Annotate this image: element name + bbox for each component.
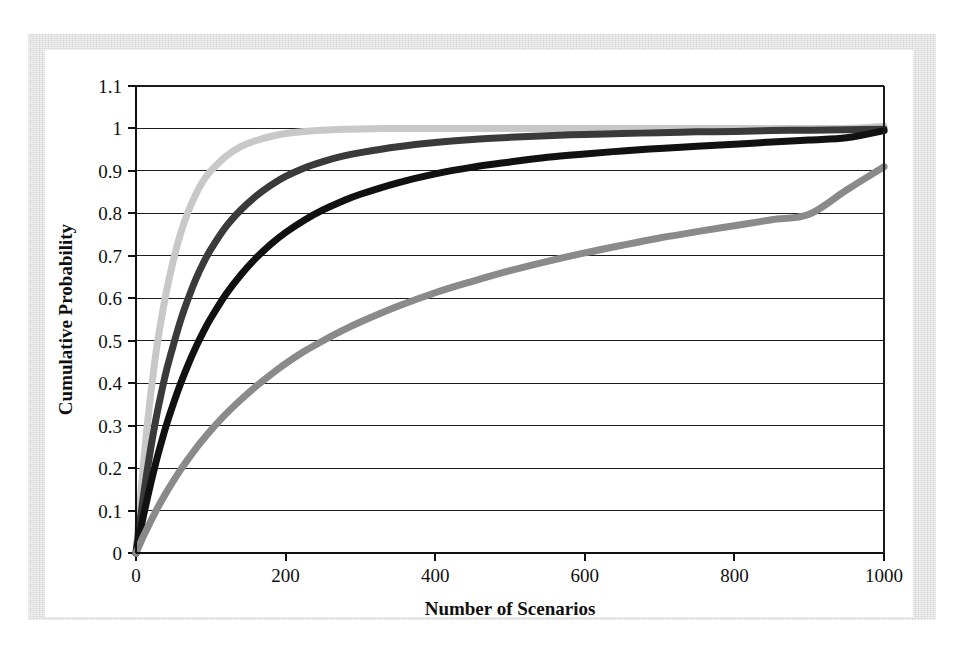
x-tick-label: 400 bbox=[421, 565, 450, 586]
y-tick-label: 1.1 bbox=[98, 76, 122, 97]
figure-page: 00.10.20.30.40.50.60.70.80.911.1 0200400… bbox=[0, 0, 964, 666]
series-group bbox=[136, 126, 884, 553]
y-tick-label: 0.5 bbox=[98, 331, 122, 352]
x-axis-title: Number of Scenarios bbox=[425, 598, 596, 617]
y-tick-label: 0.9 bbox=[98, 161, 122, 182]
x-tick-label: 600 bbox=[571, 565, 600, 586]
x-tick-labels-group: 02004006008001000 bbox=[131, 565, 903, 586]
y-axis-title: Cumulative Probability bbox=[55, 223, 76, 415]
y-tick-label: 0.1 bbox=[98, 501, 122, 522]
y-tick-label: 0.8 bbox=[98, 203, 122, 224]
y-tickmarks-group bbox=[128, 86, 136, 553]
x-tick-label: 0 bbox=[131, 565, 141, 586]
plot-frame-group bbox=[136, 86, 884, 553]
y-tick-label: 0.2 bbox=[98, 458, 122, 479]
gridlines-group bbox=[136, 86, 884, 553]
series-line-third-convergence bbox=[136, 131, 884, 553]
y-tick-labels-group: 00.10.20.30.40.50.60.70.80.911.1 bbox=[98, 76, 122, 564]
y-tick-label: 0.3 bbox=[98, 416, 122, 437]
chart-canvas: 00.10.20.30.40.50.60.70.80.911.1 0200400… bbox=[45, 50, 913, 617]
y-tick-label: 0 bbox=[113, 543, 123, 564]
series-line-fastest-convergence bbox=[136, 126, 884, 553]
figure-plate: 00.10.20.30.40.50.60.70.80.911.1 0200400… bbox=[45, 50, 913, 617]
y-tick-label: 1 bbox=[113, 118, 123, 139]
y-tick-label: 0.6 bbox=[98, 288, 122, 309]
y-tick-label: 0.4 bbox=[98, 373, 122, 394]
y-tick-label: 0.7 bbox=[98, 246, 122, 267]
x-tick-label: 1000 bbox=[865, 565, 903, 586]
x-tick-label: 800 bbox=[720, 565, 749, 586]
series-line-slowest-convergence bbox=[136, 167, 884, 553]
cumulative-probability-chart: 00.10.20.30.40.50.60.70.80.911.1 0200400… bbox=[45, 50, 913, 617]
x-tick-label: 200 bbox=[271, 565, 300, 586]
x-tickmarks-group bbox=[136, 553, 884, 561]
